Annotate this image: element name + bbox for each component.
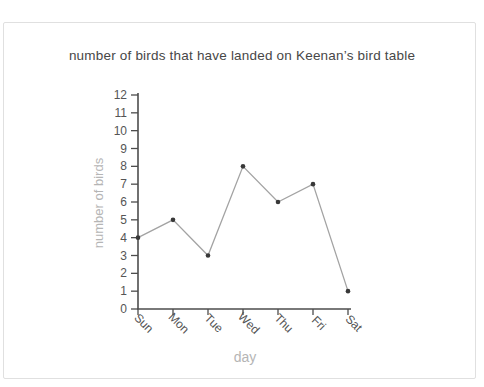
data-point bbox=[136, 235, 141, 240]
x-tick-label: Sun bbox=[131, 311, 156, 336]
y-tick-label: 8 bbox=[120, 159, 127, 173]
data-point bbox=[206, 253, 211, 258]
y-tick-label: 10 bbox=[114, 124, 128, 138]
data-point bbox=[311, 182, 316, 187]
data-line bbox=[138, 166, 348, 291]
data-point bbox=[171, 218, 176, 223]
x-tick-label: Tue bbox=[202, 311, 226, 335]
y-tick-label: 4 bbox=[120, 231, 127, 245]
x-tick-label: Fri bbox=[309, 313, 329, 333]
y-tick-label: 7 bbox=[120, 177, 127, 191]
x-axis-title: day bbox=[138, 349, 352, 365]
y-tick-label: 5 bbox=[120, 213, 127, 227]
y-tick-label: 3 bbox=[120, 249, 127, 263]
page: number of birds that have landed on Keen… bbox=[0, 0, 484, 387]
y-tick-label: 12 bbox=[114, 88, 128, 102]
data-point bbox=[241, 164, 246, 169]
y-tick-label: 11 bbox=[115, 106, 128, 120]
x-tick-label: Wed bbox=[235, 310, 262, 337]
x-tick-label: Thu bbox=[272, 311, 297, 336]
x-tick-label: Sat bbox=[343, 312, 366, 335]
y-tick-label: 2 bbox=[120, 266, 127, 280]
data-point bbox=[346, 289, 351, 294]
x-tick-label: Mon bbox=[166, 310, 192, 336]
y-tick-label: 9 bbox=[120, 142, 127, 156]
y-tick-label: 0 bbox=[120, 302, 127, 316]
y-tick-label: 6 bbox=[120, 195, 127, 209]
line-chart: 0123456789101112SunMonTueWedThuFriSat bbox=[0, 0, 484, 387]
data-point bbox=[276, 200, 281, 205]
y-tick-label: 1 bbox=[120, 284, 127, 298]
